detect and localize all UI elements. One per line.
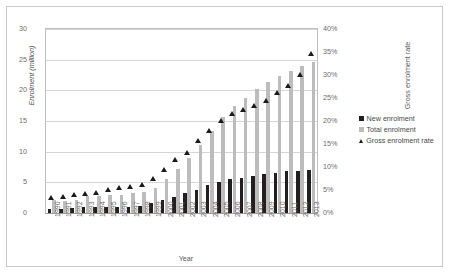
marker-gross-enrolment-rate [206,128,212,133]
bar-total-enrolment [312,62,316,213]
x-axis-tick-label: 1993 [88,201,95,217]
chart-legend: New enrolmentTotal enrolmentGross enrolm… [359,113,434,146]
marker-gross-enrolment-rate [229,111,235,116]
marker-gross-enrolment-rate [263,98,269,103]
x-axis-tick-label: 1995 [110,201,117,217]
y-axis-left-tick-label: 10 [1,147,27,156]
y-axis-left-tick-label: 15 [1,116,27,125]
legend-item[interactable]: Total enrolment [359,124,434,135]
bar-total-enrolment [221,117,225,213]
x-axis-tick-label: 1999 [155,201,162,217]
y-axis-right-tick-label: 35% [323,47,349,56]
x-axis-tick-label: 2000 [167,201,174,217]
marker-gross-enrolment-rate [48,195,54,200]
x-axis-tick-label: 2008 [257,201,264,217]
marker-gross-enrolment-rate [82,191,88,196]
bar-total-enrolment [233,106,237,213]
legend-item-label: Total enrolment [367,125,416,134]
x-axis-tick-label: 1990 [54,201,61,217]
y-axis-left-tick-label: 5 [1,177,27,186]
marker-gross-enrolment-rate [251,103,257,108]
marker-gross-enrolment-rate [308,51,314,56]
y-axis-right-tick-label: 30% [323,70,349,79]
marker-gross-enrolment-rate [161,167,167,172]
x-axis-tick-label: 2009 [268,201,275,217]
x-axis-tick-label: 1994 [99,201,106,217]
marker-gross-enrolment-rate [297,72,303,77]
x-axis-tick-label: 1992 [76,201,83,217]
y-axis-left-tick-label: 0 [1,208,27,217]
marker-gross-enrolment-rate [240,107,246,112]
legend-swatch-light-square-icon [359,127,364,132]
x-axis-tick-label: 2003 [200,201,207,217]
bar-total-enrolment [255,89,259,213]
y-axis-right-tick-label: 25% [323,93,349,102]
bar-new-enrolment [48,209,52,213]
bar-total-enrolment [300,66,304,213]
y-axis-right-tick-label: 0% [323,208,349,217]
gridline [46,29,317,30]
x-axis-title: Year [51,254,321,263]
marker-gross-enrolment-rate [218,118,224,123]
x-axis-tick-label: 2012 [302,201,309,217]
legend-item-label: New enrolment [367,114,415,123]
gridline [46,152,317,153]
y-axis-left-tick-label: 20 [1,85,27,94]
gridline [46,121,317,122]
x-axis-tick-label: 1997 [133,201,140,217]
x-axis-tick-label: 2004 [212,201,219,217]
legend-swatch-dark-square-icon [359,116,364,121]
x-axis-tick-label: 2006 [234,201,241,217]
marker-gross-enrolment-rate [274,90,280,95]
y-axis-right-tick-label: 5% [323,185,349,194]
marker-gross-enrolment-rate [184,150,190,155]
legend-item[interactable]: Gross enrolment rate [359,135,434,146]
marker-gross-enrolment-rate [105,187,111,192]
y-axis-right-tick-label: 40% [323,24,349,33]
bar-total-enrolment [244,98,248,213]
x-axis-tick-label: 2001 [178,201,185,217]
bar-total-enrolment [289,71,293,213]
y-axis-right-tick-label: 15% [323,139,349,148]
marker-gross-enrolment-rate [195,138,201,143]
y-axis-left-title: Enrolment (million) [27,6,36,146]
bar-total-enrolment [278,76,282,213]
legend-item-label: Gross enrolment rate [366,136,434,145]
y-axis-right-tick-label: 10% [323,162,349,171]
x-axis-tick-label: 2010 [279,201,286,217]
x-axis-tick-label: 2013 [313,201,320,217]
marker-gross-enrolment-rate [172,157,178,162]
y-axis-left-tick-label: 30 [1,24,27,33]
legend-item[interactable]: New enrolment [359,113,434,124]
chart-frame: Enrolment (million) Gross enrolment rate… [6,6,443,267]
x-axis-tick-label: 1991 [65,201,72,217]
marker-gross-enrolment-rate [93,190,99,195]
marker-gross-enrolment-rate [285,83,291,88]
x-axis-tick-label: 2005 [223,201,230,217]
x-axis-tick-label: 2002 [189,201,196,217]
x-axis-tick-label: 2007 [246,201,253,217]
marker-gross-enrolment-rate [71,192,77,197]
marker-gross-enrolment-rate [139,182,145,187]
marker-gross-enrolment-rate [127,184,133,189]
plot-area [45,28,318,214]
gridline [46,60,317,61]
marker-gross-enrolment-rate [150,176,156,181]
y-axis-right-tick-label: 20% [323,116,349,125]
x-axis-tick-label: 1998 [144,201,151,217]
x-axis-tick-label: 2011 [291,202,298,217]
y-axis-left-tick-label: 25 [1,55,27,64]
marker-gross-enrolment-rate [60,194,66,199]
legend-swatch-dark-triangle-icon [359,139,363,143]
x-axis-tick-label: 1996 [121,201,128,217]
marker-gross-enrolment-rate [116,185,122,190]
